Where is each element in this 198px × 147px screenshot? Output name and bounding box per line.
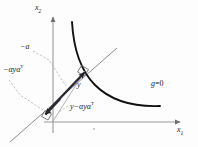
origin-tick: [93, 128, 95, 130]
label-curve-g-equals-zero: g=0: [151, 80, 164, 88]
label-y-minus-alpha-y-alpha: y−αyαT: [70, 101, 94, 111]
leader-neg-a: [33, 51, 66, 86]
constraint-curve: [72, 22, 160, 106]
leader-neg-alpha-y-alpha: [9, 80, 43, 110]
label-neg-alpha-y-alpha: −αyαT: [3, 64, 23, 74]
x-axis-label: x1: [177, 126, 183, 136]
label-y-vector: y: [77, 81, 81, 89]
diagram-canvas: [0, 0, 198, 147]
y-axis-label: x2: [35, 4, 41, 14]
label-neg-a: −a: [20, 43, 29, 51]
geometry-figure: x2 x1 −a −αyαT y−αyαT y g=0: [0, 0, 198, 147]
